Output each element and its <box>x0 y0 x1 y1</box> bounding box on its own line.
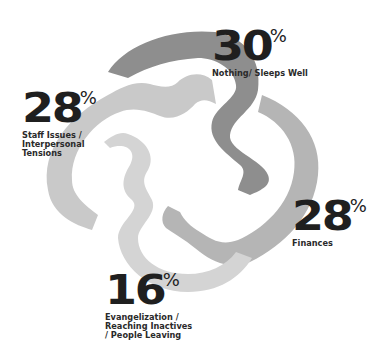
percent-symbol: % <box>270 27 287 45</box>
stat-value: 28 <box>22 88 81 128</box>
ribbon-graphic <box>0 0 387 359</box>
stat-nothing-sleeps-well: 30 % Nothing/ Sleeps Well <box>212 26 308 78</box>
stat-label: Staff Issues / Interpersonal Tensions <box>22 131 97 158</box>
stat-label: Finances <box>292 239 367 248</box>
stat-value: 28 <box>292 196 351 236</box>
percent-symbol: % <box>80 89 97 107</box>
stat-evangelization: 16 % Evangelization / Reaching Inactives… <box>105 270 192 340</box>
percent-symbol: % <box>350 197 367 215</box>
stat-label: Nothing/ Sleeps Well <box>212 69 308 78</box>
percent-symbol: % <box>163 271 180 289</box>
stat-label: Evangelization / Reaching Inactives / Pe… <box>105 313 192 340</box>
stat-value: 30 <box>212 26 271 66</box>
stat-value: 16 <box>105 270 164 310</box>
stat-staff-issues: 28 % Staff Issues / Interpersonal Tensio… <box>22 88 97 158</box>
stat-finances: 28 % Finances <box>292 196 367 248</box>
